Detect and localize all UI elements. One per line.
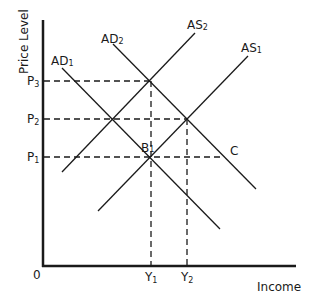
as1-label: AS1 [241, 41, 262, 55]
origin-label: 0 [33, 268, 41, 282]
y2-label: Y2 [180, 270, 193, 285]
p2-label: P2 [27, 112, 39, 127]
p3-label: P3 [27, 74, 39, 89]
y-axis-title: Price Level [17, 9, 31, 74]
as2-curve [62, 33, 195, 172]
ad2-label: AD2 [101, 32, 124, 46]
ad1-label: AD1 [51, 54, 74, 68]
y1-label: Y1 [144, 270, 157, 285]
ad2-curve [113, 44, 256, 189]
as1-curve [98, 56, 248, 211]
point-b1-label: B1 [141, 141, 154, 155]
point-c-label: C [230, 144, 238, 158]
as2-label: AS2 [187, 18, 208, 32]
ad-as-diagram: AD1 AD2 AS2 AS1 B1 C P3 P2 P1 Y1 Y2 0 In… [0, 0, 313, 303]
x-axis-title: Income [257, 280, 301, 294]
p1-label: P1 [27, 150, 39, 165]
